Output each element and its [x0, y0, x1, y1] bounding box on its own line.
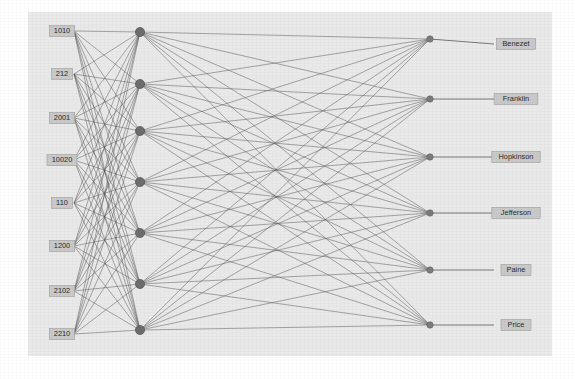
hidden-node-4[interactable]: [135, 177, 144, 186]
output-node-6[interactable]: [427, 322, 433, 328]
output-label-text-3: Hopkinson: [499, 152, 534, 161]
output-label-text-5: Paine: [507, 265, 526, 274]
hidden-node-6[interactable]: [135, 279, 144, 288]
input-label-text-7: 2102: [54, 286, 70, 295]
hidden-node-5[interactable]: [135, 228, 144, 237]
hidden-node-2[interactable]: [135, 79, 144, 88]
hidden-node-3[interactable]: [135, 126, 144, 135]
network-diagram-canvas: 1010212200110020110120021022210 BenezetF…: [0, 0, 575, 379]
output-label-text-4: Jefferson: [501, 208, 531, 217]
input-label-text-1: 1010: [54, 26, 70, 35]
input-label-text-3: 2001: [54, 113, 70, 122]
output-node-1[interactable]: [427, 36, 433, 42]
output-node-3[interactable]: [427, 154, 433, 160]
input-label-text-2: 212: [56, 69, 68, 78]
input-label-text-6: 1200: [54, 241, 70, 250]
output-label-text-2: Franklin: [503, 94, 529, 103]
input-label-text-5: 110: [56, 198, 68, 207]
output-label-text-1: Benezet: [502, 39, 529, 48]
input-label-text-4: 10020: [52, 155, 73, 164]
output-node-2[interactable]: [427, 96, 433, 102]
output-node-5[interactable]: [427, 267, 433, 273]
output-node-4[interactable]: [427, 210, 433, 216]
hidden-node-1[interactable]: [135, 27, 144, 36]
input-label-text-8: 2210: [54, 329, 70, 338]
output-label-text-6: Price: [508, 320, 525, 329]
network-diagram-svg: 1010212200110020110120021022210 BenezetF…: [0, 0, 575, 379]
hidden-node-7[interactable]: [135, 325, 144, 334]
